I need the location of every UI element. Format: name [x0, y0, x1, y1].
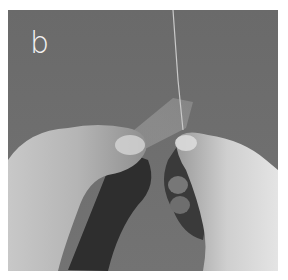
right-thumbnail: [175, 135, 197, 151]
left-thumbnail: [115, 135, 145, 155]
panel-label: b: [30, 28, 49, 58]
photo: b: [8, 10, 278, 271]
